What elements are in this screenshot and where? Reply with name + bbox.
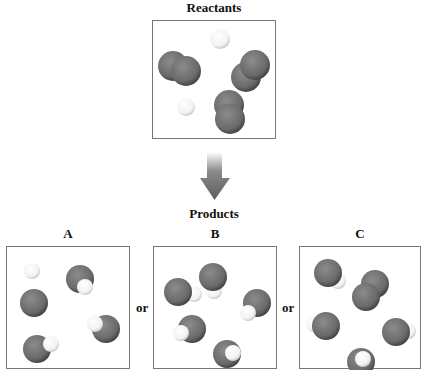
molecule-oh <box>382 318 416 346</box>
molecule-oh <box>213 340 241 368</box>
option-c-molecules <box>300 247 422 370</box>
products-title: Products <box>152 206 276 222</box>
hydrogen-atom <box>225 345 241 361</box>
hydrogen-atom <box>173 325 189 341</box>
molecule-o2 <box>214 90 245 134</box>
molecule-o2 <box>231 50 270 92</box>
oxygen-atom <box>382 318 410 346</box>
molecule-oh <box>173 315 206 343</box>
molecule-oh <box>66 265 94 295</box>
molecule-oh <box>199 263 227 299</box>
hydrogen-atom <box>355 351 371 367</box>
oxygen-atom <box>352 283 380 311</box>
or-separator-2: or <box>282 300 294 316</box>
molecule-oh <box>314 259 346 289</box>
reactants-box <box>152 20 276 139</box>
option-b-label: B <box>153 226 277 242</box>
molecule-oh <box>87 315 120 343</box>
option-b-molecules <box>154 247 278 370</box>
molecule-oh <box>164 278 202 306</box>
option-c-box <box>299 246 421 369</box>
molecule-h2 <box>210 29 230 49</box>
hydrogen-atom <box>210 29 230 49</box>
or-separator-1: or <box>136 300 148 316</box>
option-c-label: C <box>299 226 421 242</box>
molecule-oh <box>306 312 340 340</box>
oxygen-atom <box>164 278 192 306</box>
oxygen-atom <box>171 56 201 86</box>
molecule-oh <box>240 289 271 321</box>
hydrogen-atom <box>87 316 103 332</box>
oxygen-atom <box>20 289 48 317</box>
hydrogen-atom <box>177 98 195 116</box>
option-a-molecules <box>7 247 131 370</box>
oxygen-atom <box>199 263 227 291</box>
option-a-label: A <box>6 226 130 242</box>
hydrogen-atom <box>77 279 93 295</box>
molecule-h2 <box>177 98 195 116</box>
hydrogen-atom <box>43 336 59 352</box>
molecule-oh <box>20 263 48 317</box>
option-a-box <box>6 246 130 369</box>
hydrogen-atom <box>24 263 40 279</box>
option-b-box <box>153 246 277 369</box>
oxygen-atom <box>215 104 245 134</box>
hydrogen-atom <box>240 305 256 321</box>
oxygen-atom <box>312 312 340 340</box>
reactants-molecules <box>153 21 277 140</box>
oxygen-atom <box>240 50 270 80</box>
molecule-o2 <box>158 51 201 86</box>
molecule-oh <box>347 348 375 370</box>
reactants-title: Reactants <box>152 0 276 16</box>
oxygen-atom <box>314 259 342 287</box>
molecule-o2 <box>352 270 389 311</box>
molecule-oh <box>23 335 59 363</box>
